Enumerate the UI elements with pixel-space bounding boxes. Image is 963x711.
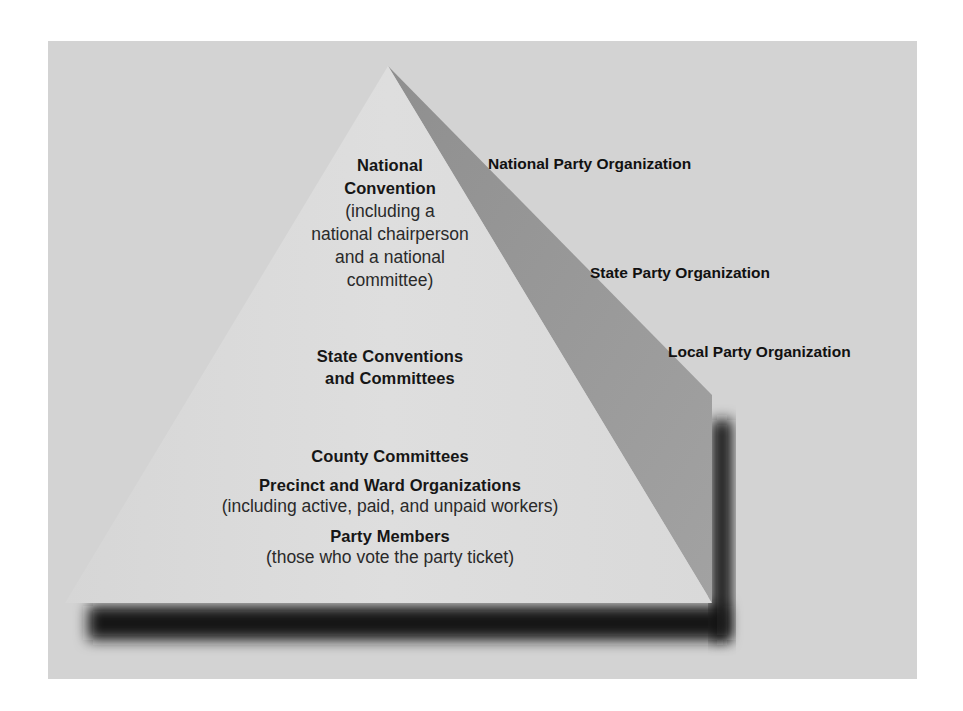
tier-local-precinct-detail: (including active, paid, and unpaid work…	[190, 496, 590, 517]
tier-national-detail-line-1: (including a	[285, 201, 495, 222]
label-state-party-organization: State Party Organization	[590, 264, 770, 282]
tier-local-party-members-title: Party Members	[190, 527, 590, 546]
tier-national-title-line-2: Convention	[285, 179, 495, 198]
tier-local-precinct-title: Precinct and Ward Organizations	[190, 476, 590, 495]
label-local-party-organization: Local Party Organization	[668, 343, 851, 361]
tier-local-county-committees: County Committees	[190, 447, 590, 466]
tier-national-title-line-1: National	[285, 156, 495, 175]
tier-national-detail-line-3: and a national	[285, 247, 495, 268]
tier-national-detail-line-2: national chairperson	[285, 224, 495, 245]
tier-state-title-line-2: and Committees	[280, 369, 500, 388]
tier-state-title-line-1: State Conventions	[280, 347, 500, 366]
tier-state: State Conventions and Committees	[280, 347, 500, 388]
tier-national-detail-line-4: committee)	[285, 270, 495, 291]
tier-local: County Committees Precinct and Ward Orga…	[190, 447, 590, 568]
tier-local-party-members-detail: (those who vote the party ticket)	[190, 547, 590, 568]
tier-national: National Convention (including a nationa…	[285, 156, 495, 291]
label-national-party-organization: National Party Organization	[488, 155, 691, 173]
